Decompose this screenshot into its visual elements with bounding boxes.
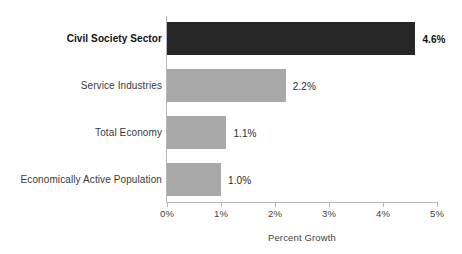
x-tick-label-0: 0% (160, 208, 174, 219)
x-axis-line (166, 202, 438, 203)
x-tick-mark-4 (383, 203, 384, 207)
x-axis-title: Percent Growth (167, 232, 437, 243)
category-label-service-industries: Service Industries (0, 69, 162, 102)
category-label-total-economy: Total Economy (0, 116, 162, 149)
bar-value-total-economy: 1.1% (233, 127, 256, 138)
x-tick-label-4: 4% (376, 208, 390, 219)
bar-total-economy (167, 116, 226, 149)
bar-value-civil-society-sector: 4.6% (422, 33, 445, 44)
x-tick-mark-0 (167, 203, 168, 207)
bar-value-economically-active-population: 1.0% (228, 174, 251, 185)
bar-economically-active-population (167, 163, 221, 196)
bar-service-industries (167, 69, 286, 102)
x-tick-label-1: 1% (214, 208, 228, 219)
category-label-economically-active-population: Economically Active Population (0, 163, 162, 196)
category-label-civil-society-sector: Civil Society Sector (0, 22, 162, 55)
x-tick-mark-5 (437, 203, 438, 207)
x-tick-label-2: 2% (268, 208, 282, 219)
bar-value-service-industries: 2.2% (293, 80, 316, 91)
bar-civil-society-sector (167, 22, 415, 55)
x-tick-label-3: 3% (322, 208, 336, 219)
x-tick-mark-3 (329, 203, 330, 207)
bar-chart: Civil Society Sector Service Industries … (0, 0, 462, 254)
x-tick-mark-1 (221, 203, 222, 207)
x-tick-mark-2 (275, 203, 276, 207)
plot-area: 4.6% 2.2% 1.1% 1.0% (167, 16, 437, 202)
x-tick-label-5: 5% (430, 208, 444, 219)
